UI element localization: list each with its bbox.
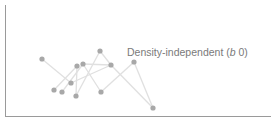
data-point — [80, 61, 85, 66]
connection-line — [76, 51, 100, 96]
data-point — [51, 87, 56, 92]
data-point — [97, 48, 102, 53]
connection-lines — [42, 51, 153, 108]
data-point — [150, 105, 155, 110]
data-point — [108, 62, 113, 67]
connection-line — [134, 62, 153, 108]
connection-line — [100, 51, 111, 65]
connection-line — [42, 59, 71, 83]
data-point — [74, 63, 79, 68]
data-point — [131, 59, 136, 64]
connection-line — [83, 64, 111, 65]
label-prefix: Density-independent ( — [127, 46, 230, 58]
label-suffix: 0) — [236, 46, 248, 58]
data-point — [68, 80, 73, 85]
connection-line — [111, 65, 153, 108]
connection-line — [101, 62, 134, 92]
data-point — [39, 56, 44, 61]
density-chart: Density-independent (b 0) — [0, 0, 271, 120]
density-independent-label: Density-independent (b 0) — [127, 46, 248, 58]
connection-line — [76, 66, 77, 96]
data-point — [98, 89, 103, 94]
data-point — [59, 89, 64, 94]
data-point — [73, 93, 78, 98]
